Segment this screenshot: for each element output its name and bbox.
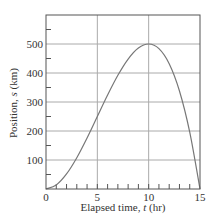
y-tick-label: 200 xyxy=(27,125,44,137)
position-time-chart: 051015 100200300400500 Elapsed time, t (… xyxy=(0,0,215,222)
gridlines xyxy=(46,15,200,189)
y-tick-labels: 100200300400500 xyxy=(27,38,44,166)
y-tick-label: 100 xyxy=(27,154,44,166)
position-curve xyxy=(46,44,200,189)
y-tick-label: 300 xyxy=(27,96,44,108)
x-axis-label: Elapsed time, t (hr) xyxy=(81,201,166,214)
x-tick-label: 0 xyxy=(43,191,49,203)
y-tick-label: 500 xyxy=(27,38,44,50)
y-axis-label: Position, s (km) xyxy=(7,68,20,138)
y-tick-label: 400 xyxy=(27,67,44,79)
x-tick-label: 15 xyxy=(195,191,207,203)
minor-ticks xyxy=(46,30,190,190)
